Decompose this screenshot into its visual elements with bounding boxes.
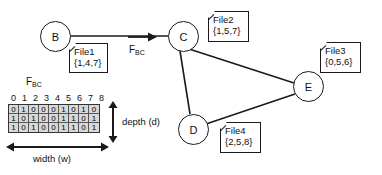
width-dimension-label: width (w) (33, 153, 71, 164)
bitmap-col-header: 3 (41, 93, 52, 104)
bitmap-title-sub: BC (32, 81, 42, 88)
graph-node-e-label: E (305, 81, 312, 93)
bitmap-cell[interactable]: 0 (49, 114, 59, 123)
bitmap-cell[interactable]: 1 (29, 114, 39, 123)
bitmap-cell[interactable]: 1 (29, 123, 39, 132)
file-box-file1[interactable]: File1 {1,4,7} (69, 43, 108, 73)
bitmap-cell[interactable]: 0 (29, 105, 39, 114)
bitmap-cell[interactable]: 1 (59, 105, 69, 114)
bitmap-cell[interactable]: 0 (79, 114, 89, 123)
file-box-file2[interactable]: File2 {1,5,7} (208, 11, 249, 42)
transfer-label-sub: BC (135, 49, 145, 56)
bitmap-cell[interactable]: 0 (39, 114, 49, 123)
file-box-file4-name: File4 (225, 125, 257, 136)
bitmap-col-header: 7 (85, 93, 96, 104)
file-box-file2-name: File2 (213, 14, 245, 25)
bitmap-col-header: 6 (74, 93, 85, 104)
bitmap-cell[interactable]: 0 (79, 123, 89, 132)
bitmap-col-header: 4 (52, 93, 63, 104)
file-box-file4[interactable]: File4 {2,5,8} (220, 122, 261, 153)
width-arrow-icon (6, 143, 109, 152)
bitmap-column-headers: 0 1 2 3 4 5 6 7 8 (8, 93, 107, 104)
file-box-file1-set: {1,4,7} (74, 57, 104, 68)
bitmap-col-header: 5 (63, 93, 74, 104)
graph-node-c-label: C (180, 31, 188, 43)
bitmap-cell[interactable]: 0 (19, 114, 29, 123)
file-box-file1-name: File1 (74, 46, 104, 57)
bitmap-cell[interactable]: 0 (19, 123, 29, 132)
file-box-file3-name: File3 (325, 45, 357, 56)
transfer-label-fbc: FBC (129, 44, 145, 55)
file-box-file4-set: {2,5,8} (225, 136, 257, 147)
bitmap-cell[interactable]: 0 (49, 105, 59, 114)
graph-node-b[interactable]: B (40, 21, 71, 52)
bitmap-row: 0 1 0 0 0 1 0 1 0 (9, 105, 99, 114)
bitmap-cell[interactable]: 0 (89, 105, 99, 114)
bitmap-cell[interactable]: 1 (19, 105, 29, 114)
bitmap-cell[interactable]: 0 (9, 105, 19, 114)
bitmap-cell[interactable]: 1 (9, 114, 19, 123)
edge-c-e (186, 48, 294, 83)
bitmap-cell[interactable]: 0 (49, 123, 59, 132)
diagram-canvas: B C D E File1 {1,4,7} File2 {1,5,7} File… (0, 0, 382, 175)
bitmap-cell[interactable]: 0 (39, 123, 49, 132)
bitmap-col-header: 2 (30, 93, 41, 104)
bitmap-cell[interactable]: 1 (69, 114, 79, 123)
depth-arrow-icon (109, 101, 118, 143)
bitmap-cell[interactable]: 1 (79, 105, 89, 114)
bitmap-cell[interactable]: 0 (39, 105, 49, 114)
edge-c-d (180, 51, 190, 114)
graph-node-d-label: D (190, 124, 198, 136)
bitmap-cell[interactable]: 1 (89, 123, 99, 132)
transfer-arrow-icon (128, 33, 157, 42)
graph-node-c[interactable]: C (168, 21, 199, 52)
depth-dimension-label: depth (d) (122, 116, 160, 127)
bitmap-col-header: 1 (19, 93, 30, 104)
graph-node-b-label: B (52, 31, 59, 43)
graph-node-d[interactable]: D (178, 114, 209, 145)
bitmap-cell[interactable]: 1 (59, 114, 69, 123)
bitmap-grid: 0 1 0 0 0 1 0 1 0 1 0 1 0 0 1 1 0 1 (8, 104, 100, 133)
file-box-file2-set: {1,5,7} (213, 25, 245, 36)
bitmap-cell[interactable]: 0 (69, 105, 79, 114)
bitmap-cell[interactable]: 1 (9, 123, 19, 132)
edge-d-e (206, 94, 295, 124)
bitmap-cell[interactable]: 1 (59, 123, 69, 132)
bitmap-title-fbc: FBC (26, 76, 42, 87)
file-box-file3-set: {0,5,6} (325, 56, 357, 67)
bitmap-cell[interactable]: 1 (89, 114, 99, 123)
bloom-filter-bitmap: 0 1 2 3 4 5 6 7 8 0 1 0 0 0 1 0 1 0 1 (8, 93, 107, 134)
file-box-file3[interactable]: File3 {0,5,6} (320, 42, 361, 73)
bitmap-row: 1 0 1 0 0 1 1 0 1 (9, 123, 99, 132)
bitmap-row: 1 0 1 0 0 1 1 0 1 (9, 114, 99, 123)
bitmap-col-header: 0 (8, 93, 19, 104)
graph-node-e[interactable]: E (293, 71, 324, 102)
bitmap-cell[interactable]: 1 (69, 123, 79, 132)
bitmap-col-header: 8 (96, 93, 107, 104)
